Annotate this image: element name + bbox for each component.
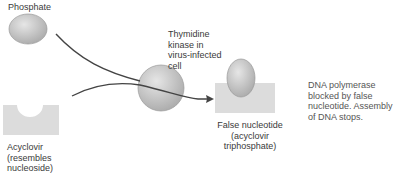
false-nucleotide-oval <box>227 59 255 97</box>
polymerase-label-line2: blocked by false <box>308 91 393 102</box>
acyclovir-label-line1: Acyclovir <box>7 142 53 153</box>
acyclovir-shape <box>3 105 59 135</box>
polymerase-label-line3: nucleotide. Assembly <box>308 101 393 112</box>
kinase-sphere <box>138 65 184 111</box>
polymerase-label: DNA polymerase blocked by false nucleoti… <box>308 80 393 122</box>
kinase-label-line1: Thymidine <box>168 29 222 40</box>
kinase-label: Thymidine kinase in virus-infected cell <box>168 29 222 71</box>
acyclovir-label-line2: (resembles <box>7 153 53 164</box>
false-nucleotide-label: False nucleotide (acyclovir triphosphate… <box>204 120 296 152</box>
arrowhead-icon <box>206 95 214 103</box>
kinase-label-line4: cell <box>168 61 222 72</box>
false-nucleotide-label-line1: False nucleotide <box>204 120 296 131</box>
phosphate-shape <box>9 14 47 44</box>
false-nucleotide-label-line2: (acyclovir triphosphate) <box>204 131 296 152</box>
phosphate-label: Phosphate <box>8 2 51 13</box>
kinase-label-line2: kinase in <box>168 40 222 51</box>
polymerase-label-line1: DNA polymerase <box>308 80 393 91</box>
phosphate-arrow-line <box>56 34 140 81</box>
kinase-label-line3: virus-infected <box>168 50 222 61</box>
acyclovir-label-line3: nucleoside) <box>7 163 53 174</box>
polymerase-label-line4: of DNA stops. <box>308 112 393 123</box>
acyclovir-label: Acyclovir (resembles nucleoside) <box>7 142 53 174</box>
